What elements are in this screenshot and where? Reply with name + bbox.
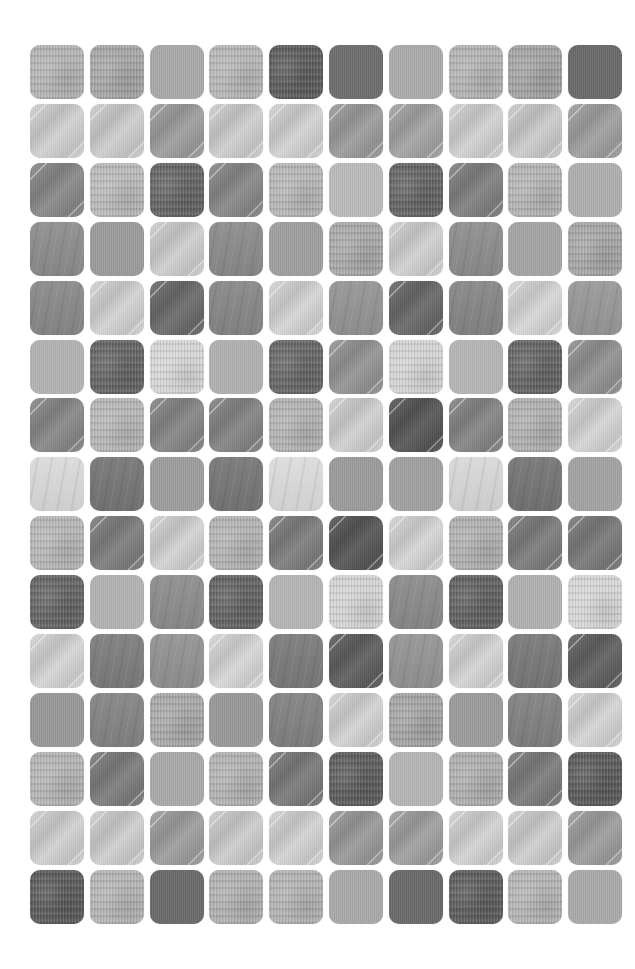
texture-swatch-brushed bbox=[209, 398, 263, 452]
texture-swatch-streaked bbox=[209, 281, 263, 335]
texture-swatch-brushed bbox=[150, 811, 204, 865]
texture-swatch-brushed bbox=[389, 516, 443, 570]
texture-swatch-fabric bbox=[568, 222, 622, 276]
texture-swatch-streaked bbox=[449, 222, 503, 276]
texture-swatch-brushed bbox=[568, 398, 622, 452]
texture-swatch-brushed bbox=[150, 516, 204, 570]
texture-swatch-brushed bbox=[389, 398, 443, 452]
texture-swatch-brushed bbox=[568, 811, 622, 865]
texture-swatch-flat bbox=[329, 45, 383, 99]
texture-swatch-fabric bbox=[449, 516, 503, 570]
texture-swatch-fabric bbox=[269, 340, 323, 394]
texture-swatch-flat bbox=[449, 693, 503, 747]
texture-swatch-fabric bbox=[389, 340, 443, 394]
texture-swatch-brushed bbox=[449, 398, 503, 452]
texture-swatch-streaked bbox=[269, 693, 323, 747]
texture-swatch-flat bbox=[568, 45, 622, 99]
texture-swatch-fabric bbox=[150, 163, 204, 217]
texture-swatch-brushed bbox=[568, 634, 622, 688]
texture-swatch-fabric bbox=[329, 752, 383, 806]
texture-swatch-streaked bbox=[30, 281, 84, 335]
texture-swatch-flat bbox=[150, 45, 204, 99]
texture-swatch-brushed bbox=[329, 398, 383, 452]
texture-swatch-flat bbox=[389, 45, 443, 99]
texture-swatch-brushed bbox=[150, 281, 204, 335]
texture-swatch-fabric bbox=[508, 45, 562, 99]
texture-swatch-brushed bbox=[150, 104, 204, 158]
texture-swatch-streaked bbox=[508, 457, 562, 511]
texture-swatch-brushed bbox=[269, 752, 323, 806]
texture-swatch-brushed bbox=[568, 340, 622, 394]
texture-swatch-fabric bbox=[449, 45, 503, 99]
texture-swatch-streaked bbox=[389, 634, 443, 688]
texture-swatch-streaked bbox=[568, 281, 622, 335]
texture-swatch-brushed bbox=[269, 811, 323, 865]
texture-swatch-brushed bbox=[568, 693, 622, 747]
texture-swatch-fabric bbox=[90, 870, 144, 924]
texture-swatch-flat bbox=[389, 752, 443, 806]
texture-swatch-brushed bbox=[329, 811, 383, 865]
texture-swatch-brushed bbox=[90, 516, 144, 570]
texture-swatch-brushed bbox=[90, 752, 144, 806]
texture-swatch-brushed bbox=[329, 693, 383, 747]
texture-swatch-flat bbox=[150, 457, 204, 511]
texture-swatch-brushed bbox=[508, 281, 562, 335]
texture-swatch-flat bbox=[150, 752, 204, 806]
texture-swatch-flat bbox=[90, 222, 144, 276]
texture-swatch-brushed bbox=[90, 811, 144, 865]
texture-swatch-brushed bbox=[269, 516, 323, 570]
texture-swatch-fabric bbox=[269, 398, 323, 452]
texture-swatch-fabric bbox=[329, 575, 383, 629]
texture-swatch-streaked bbox=[150, 634, 204, 688]
texture-swatch-flat bbox=[329, 163, 383, 217]
texture-swatch-fabric bbox=[150, 340, 204, 394]
texture-swatch-flat bbox=[449, 340, 503, 394]
texture-swatch-streaked bbox=[90, 634, 144, 688]
texture-swatch-brushed bbox=[389, 281, 443, 335]
texture-swatch-brushed bbox=[90, 104, 144, 158]
texture-swatch-brushed bbox=[389, 104, 443, 158]
texture-swatch-fabric bbox=[449, 575, 503, 629]
texture-swatch-flat bbox=[30, 340, 84, 394]
texture-swatch-streaked bbox=[90, 693, 144, 747]
texture-swatch-brushed bbox=[449, 104, 503, 158]
texture-swatch-flat bbox=[269, 222, 323, 276]
texture-swatch-brushed bbox=[508, 752, 562, 806]
texture-swatch-flat bbox=[90, 575, 144, 629]
texture-swatch-streaked bbox=[269, 457, 323, 511]
texture-swatch-grid bbox=[0, 0, 635, 969]
texture-swatch-brushed bbox=[269, 104, 323, 158]
texture-swatch-brushed bbox=[269, 281, 323, 335]
texture-swatch-flat bbox=[209, 693, 263, 747]
texture-swatch-streaked bbox=[209, 457, 263, 511]
texture-swatch-fabric bbox=[508, 340, 562, 394]
texture-swatch-brushed bbox=[449, 811, 503, 865]
texture-swatch-fabric bbox=[90, 340, 144, 394]
texture-swatch-fabric bbox=[209, 752, 263, 806]
texture-swatch-brushed bbox=[389, 222, 443, 276]
texture-swatch-flat bbox=[30, 693, 84, 747]
texture-swatch-fabric bbox=[209, 45, 263, 99]
texture-swatch-streaked bbox=[508, 634, 562, 688]
texture-swatch-flat bbox=[150, 870, 204, 924]
texture-swatch-fabric bbox=[508, 870, 562, 924]
texture-swatch-fabric bbox=[150, 693, 204, 747]
texture-swatch-fabric bbox=[30, 752, 84, 806]
texture-swatch-streaked bbox=[150, 575, 204, 629]
texture-swatch-brushed bbox=[150, 398, 204, 452]
texture-swatch-brushed bbox=[329, 340, 383, 394]
texture-swatch-brushed bbox=[449, 634, 503, 688]
texture-swatch-fabric bbox=[508, 398, 562, 452]
texture-swatch-fabric bbox=[329, 222, 383, 276]
texture-swatch-flat bbox=[209, 340, 263, 394]
texture-swatch-brushed bbox=[329, 516, 383, 570]
texture-swatch-streaked bbox=[269, 634, 323, 688]
texture-swatch-brushed bbox=[389, 811, 443, 865]
texture-swatch-brushed bbox=[508, 104, 562, 158]
texture-swatch-streaked bbox=[209, 222, 263, 276]
texture-swatch-fabric bbox=[30, 870, 84, 924]
texture-swatch-streaked bbox=[90, 457, 144, 511]
texture-swatch-brushed bbox=[568, 104, 622, 158]
texture-swatch-brushed bbox=[150, 222, 204, 276]
texture-swatch-fabric bbox=[568, 752, 622, 806]
